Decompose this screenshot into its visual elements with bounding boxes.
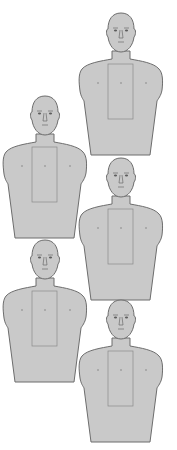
target-icon xyxy=(79,13,162,155)
silhouette-target-5 xyxy=(79,300,162,442)
target-icon xyxy=(3,240,86,382)
target-icon xyxy=(3,96,86,238)
silhouette-target-4 xyxy=(3,240,86,382)
silhouette-target-2 xyxy=(3,96,86,238)
target-icon xyxy=(79,300,162,442)
silhouette-target-1 xyxy=(79,13,162,155)
targets-canvas xyxy=(0,0,177,450)
target-icon xyxy=(79,158,162,300)
silhouette-target-3 xyxy=(79,158,162,300)
